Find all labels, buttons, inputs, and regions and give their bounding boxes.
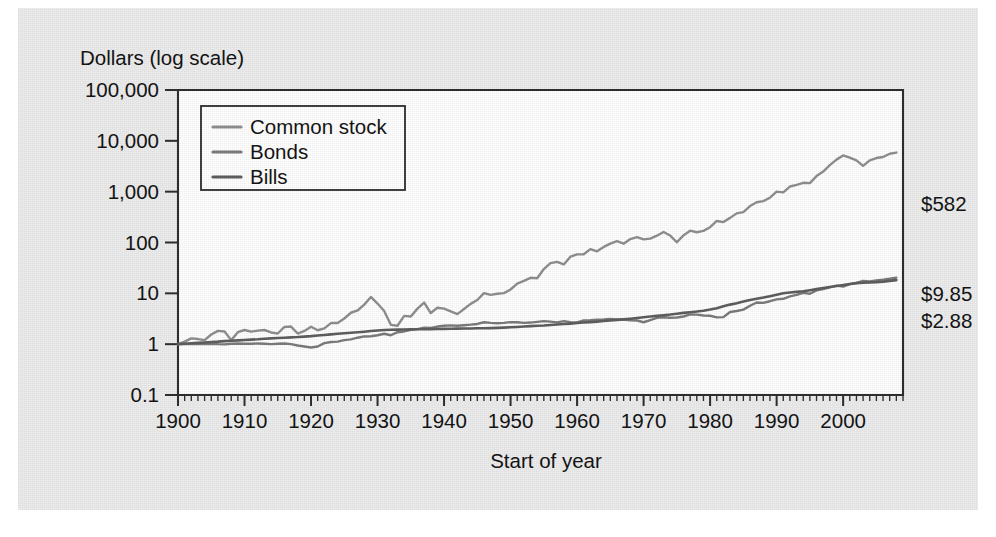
x-tick-label: 1910 (222, 409, 268, 432)
end-value-annotations: $582$9.85$2.88 (921, 192, 972, 332)
x-tick-label: 1960 (554, 409, 600, 432)
x-tick-label: 1990 (754, 409, 800, 432)
x-tick-label: 1970 (621, 409, 667, 432)
y-tick-label: 100,000 (85, 78, 159, 101)
y-tick-label: 0.1 (131, 383, 160, 406)
x-axis-tick-labels: 1900191019201930194019501960197019801990… (155, 409, 866, 432)
chart-legend: Common stockBondsBills (201, 106, 405, 190)
x-tick-label: 1940 (421, 409, 467, 432)
annotation-label: $2.88 (921, 309, 972, 332)
y-tick-label: 1,000 (108, 180, 159, 203)
x-tick-label: 1930 (355, 409, 401, 432)
y-tick-label: 10,000 (96, 129, 159, 152)
annotation-label: $9.85 (921, 282, 972, 305)
y-axis-title: Dollars (log scale) (80, 46, 244, 69)
annotation-label: $582 (921, 192, 967, 215)
legend-label: Bonds (250, 140, 308, 163)
figure-container: 100,00010,0001,0001001010.1 190019101920… (18, 8, 978, 510)
y-tick-label: 10 (136, 281, 159, 304)
y-tick-label: 1 (148, 332, 159, 355)
x-axis-title: Start of year (490, 449, 602, 472)
x-tick-label: 1900 (155, 409, 201, 432)
y-axis-tick-labels: 100,00010,0001,0001001010.1 (85, 78, 159, 406)
legend-label: Common stock (250, 115, 387, 138)
legend-label: Bills (250, 165, 288, 188)
x-tick-label: 1920 (288, 409, 334, 432)
x-tick-label: 1950 (488, 409, 534, 432)
x-tick-label: 1980 (687, 409, 733, 432)
chart-svg: 100,00010,0001,0001001010.1 190019101920… (18, 8, 978, 510)
x-tick-label: 2000 (820, 409, 866, 432)
y-tick-label: 100 (125, 231, 159, 254)
